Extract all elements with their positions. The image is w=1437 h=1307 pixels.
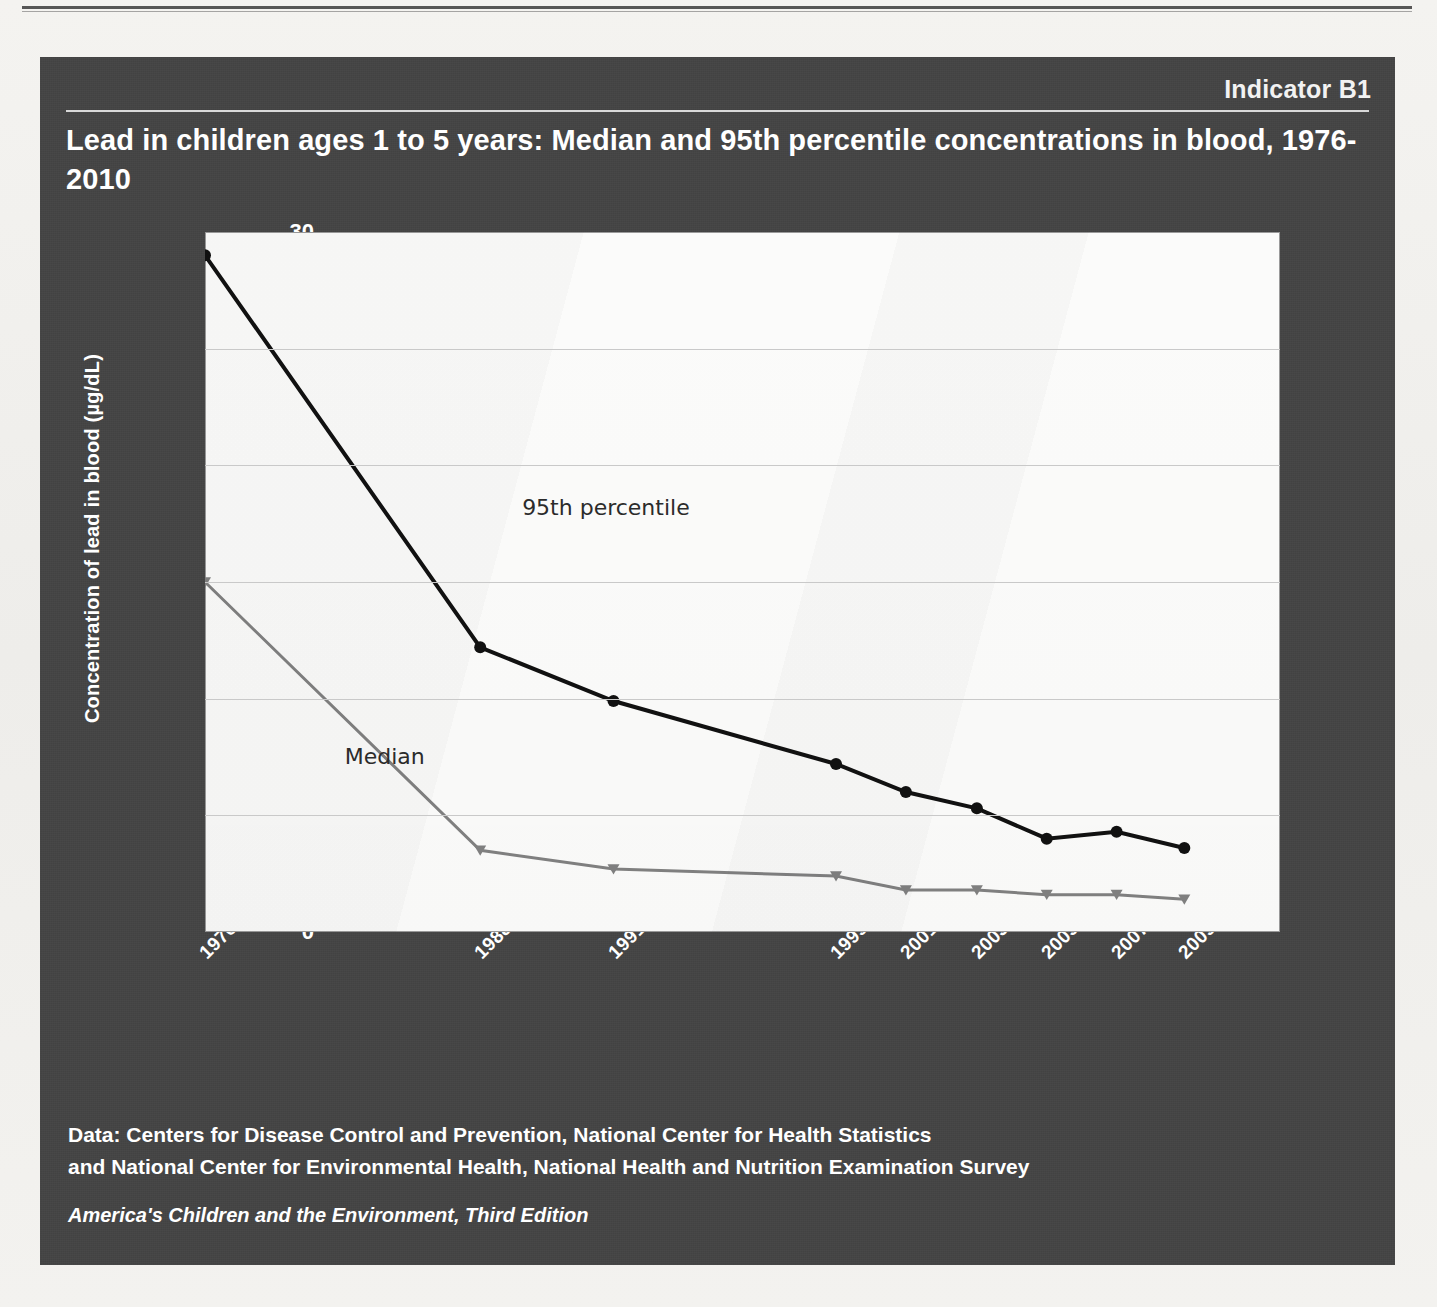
data-point-marker [1178, 842, 1190, 854]
series-label: 95th percentile [522, 495, 690, 520]
indicator-panel: Indicator B1 Lead in children ages 1 to … [40, 57, 1395, 1265]
series-label: Median [345, 744, 425, 769]
data-point-marker [608, 695, 620, 707]
gridline [205, 349, 1280, 350]
page-top-rule [22, 6, 1412, 9]
page-top-rule-secondary [22, 11, 1412, 12]
gridline [205, 465, 1280, 466]
data-point-marker [830, 758, 842, 770]
publication-line: America's Children and the Environment, … [68, 1204, 1368, 1227]
series-line [205, 582, 1184, 899]
source-line-1: Data: Centers for Disease Control and Pr… [68, 1119, 1368, 1151]
data-point-marker [900, 786, 912, 798]
source-line-2: and National Center for Environmental He… [68, 1151, 1368, 1183]
data-point-marker [971, 802, 983, 814]
gridline [205, 815, 1280, 816]
data-point-marker [1111, 826, 1123, 838]
gridline [205, 582, 1280, 583]
footer: Data: Centers for Disease Control and Pr… [68, 1119, 1368, 1227]
plot-area: 95th percentileMedian [205, 232, 1280, 932]
gridline [205, 699, 1280, 700]
data-point-marker [474, 641, 486, 653]
data-point-marker [1041, 833, 1053, 845]
y-axis-title: Concentration of lead in blood (µg/dL) [81, 259, 104, 819]
chart-region: Concentration of lead in blood (µg/dL) 0… [40, 57, 1395, 1265]
